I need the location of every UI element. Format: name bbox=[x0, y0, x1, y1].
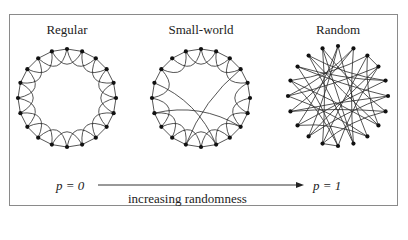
node bbox=[18, 111, 22, 115]
node bbox=[25, 67, 29, 71]
node bbox=[152, 81, 156, 85]
node bbox=[288, 109, 292, 113]
node bbox=[159, 67, 163, 71]
node bbox=[65, 145, 69, 149]
node bbox=[18, 81, 22, 85]
node bbox=[50, 49, 54, 53]
node bbox=[112, 111, 116, 115]
node bbox=[286, 94, 290, 98]
node bbox=[25, 125, 29, 129]
node bbox=[16, 96, 20, 100]
node bbox=[150, 96, 154, 100]
node bbox=[80, 49, 84, 53]
random-network bbox=[286, 44, 390, 148]
node bbox=[383, 78, 387, 82]
node bbox=[152, 111, 156, 115]
node bbox=[365, 53, 369, 57]
node bbox=[105, 67, 109, 71]
node bbox=[36, 136, 40, 140]
node bbox=[383, 109, 387, 113]
node bbox=[376, 65, 380, 69]
node bbox=[228, 56, 232, 60]
node bbox=[105, 125, 109, 129]
node bbox=[351, 46, 355, 50]
p-zero-label: p = 0 bbox=[56, 178, 84, 194]
node bbox=[65, 47, 69, 51]
node bbox=[307, 53, 311, 57]
node bbox=[246, 111, 250, 115]
randomness-caption: increasing randomness bbox=[128, 191, 247, 207]
node bbox=[112, 81, 116, 85]
node bbox=[214, 49, 218, 53]
node bbox=[170, 56, 174, 60]
node bbox=[336, 144, 340, 148]
p-one-label: p = 1 bbox=[313, 178, 341, 194]
node bbox=[94, 56, 98, 60]
node bbox=[114, 96, 118, 100]
node bbox=[199, 47, 203, 51]
node bbox=[288, 78, 292, 82]
node bbox=[320, 141, 324, 145]
node bbox=[170, 136, 174, 140]
node bbox=[336, 44, 340, 48]
regular-ring-lattice bbox=[16, 47, 118, 149]
node bbox=[386, 94, 390, 98]
node bbox=[159, 125, 163, 129]
node bbox=[94, 136, 98, 140]
node bbox=[184, 143, 188, 147]
node bbox=[228, 136, 232, 140]
node bbox=[248, 96, 252, 100]
node bbox=[376, 123, 380, 127]
node bbox=[307, 134, 311, 138]
node bbox=[80, 143, 84, 147]
node bbox=[214, 143, 218, 147]
node bbox=[365, 134, 369, 138]
node bbox=[295, 123, 299, 127]
node bbox=[36, 56, 40, 60]
node bbox=[184, 49, 188, 53]
node bbox=[199, 145, 203, 149]
node bbox=[320, 46, 324, 50]
node bbox=[246, 81, 250, 85]
node bbox=[239, 67, 243, 71]
node bbox=[50, 143, 54, 147]
node bbox=[295, 65, 299, 69]
node bbox=[239, 125, 243, 129]
node bbox=[351, 141, 355, 145]
randomness-arrow bbox=[98, 182, 304, 188]
small-world-network bbox=[150, 47, 252, 149]
